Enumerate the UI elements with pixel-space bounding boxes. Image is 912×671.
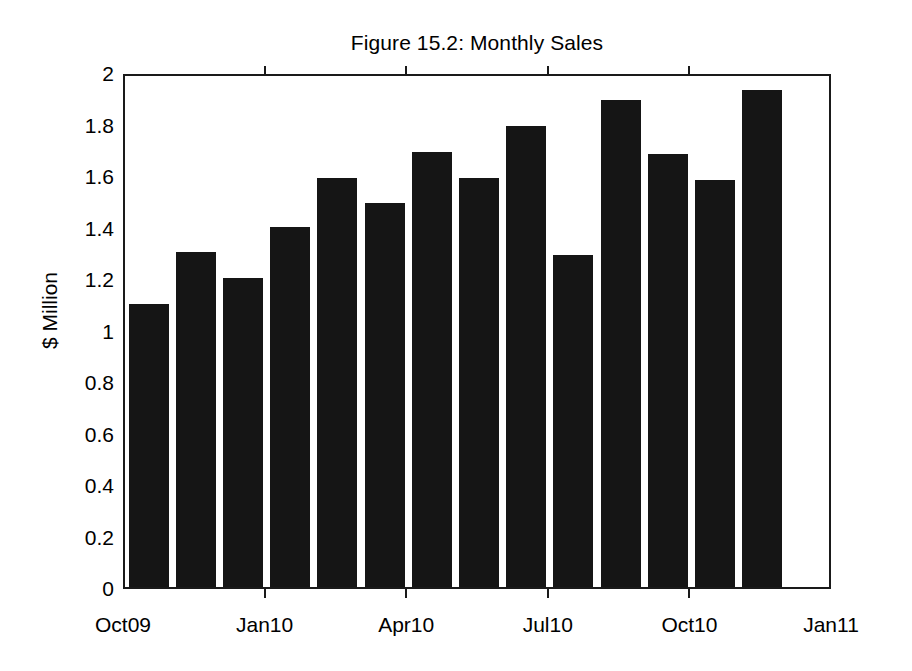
x-tick-label: Jan11 <box>771 613 891 637</box>
y-tick-label: 1.8 <box>44 115 114 136</box>
chart-title: Figure 15.2: Monthly Sales <box>123 30 831 56</box>
bar <box>742 90 782 587</box>
y-tick-label: 0.6 <box>44 424 114 445</box>
bar <box>601 100 641 587</box>
bar <box>317 178 357 587</box>
bar <box>223 278 263 587</box>
y-tick-label: 1.4 <box>44 218 114 239</box>
bar <box>553 255 593 587</box>
y-tick-label: 0.8 <box>44 372 114 393</box>
x-tick-label: Oct09 <box>63 613 183 637</box>
y-tick-label: 2 <box>44 63 114 84</box>
bar <box>270 227 310 588</box>
bar <box>695 180 735 587</box>
x-tick-mark <box>688 589 690 598</box>
x-tick-label: Oct10 <box>629 613 749 637</box>
x-tick-mark <box>547 589 549 598</box>
y-tick-label: 1 <box>44 321 114 342</box>
y-tick-label: 0.2 <box>44 527 114 548</box>
figure-container: Figure 15.2: Monthly Sales $ Million 00.… <box>0 0 912 671</box>
x-tick-label: Jan10 <box>205 613 325 637</box>
y-tick-label: 0 <box>44 578 114 599</box>
x-tick-mark <box>264 589 266 598</box>
y-tick-label: 1.2 <box>44 269 114 290</box>
bar <box>459 178 499 587</box>
bar <box>365 203 405 587</box>
y-tick-label: 0.4 <box>44 475 114 496</box>
bar <box>506 126 546 587</box>
x-tick-mark <box>405 589 407 598</box>
x-tick-label: Jul10 <box>488 613 608 637</box>
bars-layer <box>125 76 829 587</box>
bar <box>648 154 688 587</box>
bar <box>412 152 452 587</box>
y-tick-label: 1.6 <box>44 166 114 187</box>
bar <box>176 252 216 587</box>
bar <box>129 304 169 587</box>
x-tick-label: Apr10 <box>346 613 466 637</box>
plot-area <box>123 74 831 589</box>
